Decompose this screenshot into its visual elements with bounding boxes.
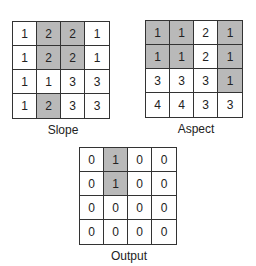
slope-cell: 1 bbox=[13, 46, 37, 70]
aspect-cell: 1 bbox=[146, 45, 170, 69]
aspect-label: Aspect bbox=[146, 122, 246, 136]
slope-cell: 3 bbox=[85, 70, 109, 94]
output-cell: 1 bbox=[104, 148, 128, 172]
output-cell: 0 bbox=[104, 220, 128, 244]
slope-cell: 2 bbox=[37, 22, 61, 46]
slope-cell: 1 bbox=[85, 22, 109, 46]
aspect-cell: 1 bbox=[170, 45, 194, 69]
output-cell: 0 bbox=[128, 196, 152, 220]
slope-cell: 3 bbox=[61, 94, 85, 118]
slope-cell: 1 bbox=[13, 70, 37, 94]
aspect-cell: 1 bbox=[218, 21, 242, 45]
aspect-cell: 1 bbox=[170, 21, 194, 45]
output-cell: 0 bbox=[152, 220, 176, 244]
slope-cell: 1 bbox=[13, 94, 37, 118]
aspect-cell: 3 bbox=[194, 93, 218, 117]
output-cell: 0 bbox=[128, 148, 152, 172]
output-grid: 0100010000000000 bbox=[79, 147, 177, 245]
aspect-cell: 3 bbox=[218, 93, 242, 117]
aspect-cell: 4 bbox=[170, 93, 194, 117]
output-cell: 0 bbox=[104, 196, 128, 220]
slope-cell: 1 bbox=[37, 70, 61, 94]
slope-cell: 3 bbox=[61, 70, 85, 94]
aspect-cell: 1 bbox=[146, 21, 170, 45]
aspect-grid: 1121112133314433 bbox=[145, 20, 243, 118]
aspect-cell: 1 bbox=[218, 69, 242, 93]
slope-cell: 3 bbox=[85, 94, 109, 118]
slope-cell: 1 bbox=[13, 22, 37, 46]
output-cell: 0 bbox=[80, 220, 104, 244]
slope-cell: 2 bbox=[61, 46, 85, 70]
aspect-cell: 4 bbox=[146, 93, 170, 117]
aspect-cell: 3 bbox=[146, 69, 170, 93]
output-panel: 0100010000000000 bbox=[79, 147, 177, 245]
output-cell: 0 bbox=[80, 172, 104, 196]
output-cell: 0 bbox=[128, 172, 152, 196]
slope-cell: 2 bbox=[37, 46, 61, 70]
output-label: Output bbox=[79, 249, 179, 263]
aspect-cell: 3 bbox=[170, 69, 194, 93]
aspect-cell: 3 bbox=[194, 69, 218, 93]
slope-panel: 1221122111331233 bbox=[12, 21, 110, 119]
slope-cell: 2 bbox=[61, 22, 85, 46]
output-cell: 0 bbox=[152, 172, 176, 196]
aspect-panel: 1121112133314433 bbox=[145, 20, 243, 118]
output-cell: 0 bbox=[152, 196, 176, 220]
output-cell: 1 bbox=[104, 172, 128, 196]
slope-cell: 2 bbox=[37, 94, 61, 118]
aspect-cell: 2 bbox=[194, 21, 218, 45]
aspect-cell: 2 bbox=[194, 45, 218, 69]
aspect-cell: 1 bbox=[218, 45, 242, 69]
slope-label: Slope bbox=[13, 123, 113, 137]
slope-cell: 1 bbox=[85, 46, 109, 70]
output-cell: 0 bbox=[80, 196, 104, 220]
output-cell: 0 bbox=[128, 220, 152, 244]
output-cell: 0 bbox=[80, 148, 104, 172]
slope-grid: 1221122111331233 bbox=[12, 21, 110, 119]
output-cell: 0 bbox=[152, 148, 176, 172]
